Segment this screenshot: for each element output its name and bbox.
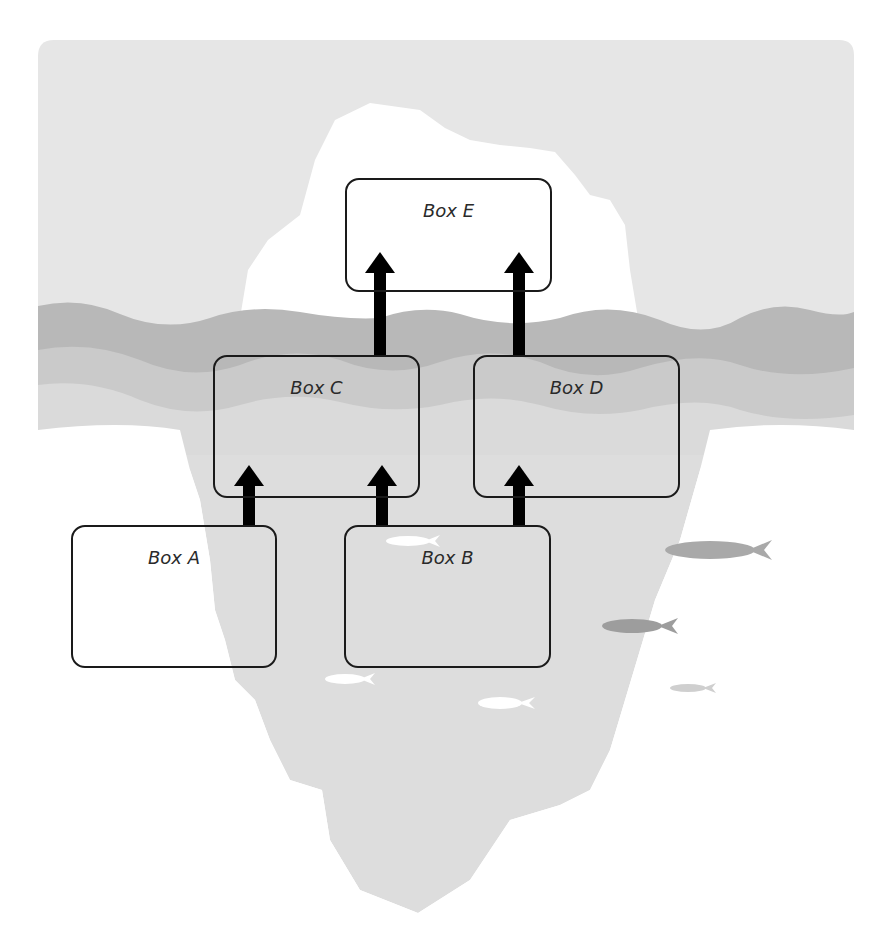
box-a-label: Box A	[73, 547, 275, 568]
box-e-label: Box E	[347, 200, 550, 221]
box-b-label: Box B	[346, 547, 549, 568]
box-c-label: Box C	[215, 377, 418, 398]
iceberg-background	[0, 0, 891, 947]
box-d: Box D	[473, 355, 680, 498]
box-b: Box B	[344, 525, 551, 668]
box-d-label: Box D	[475, 377, 678, 398]
box-a: Box A	[71, 525, 277, 668]
box-c: Box C	[213, 355, 420, 498]
box-e: Box E	[345, 178, 552, 292]
